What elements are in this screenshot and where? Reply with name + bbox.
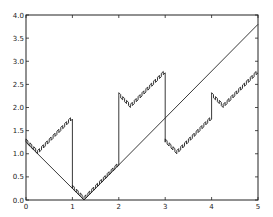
- ticks-layer: 0123450.00.51.01.52.02.53.03.54.0: [13, 12, 260, 212]
- series-layer: [26, 24, 258, 200]
- series-jagged-line: [26, 72, 258, 201]
- y-tick-label: 0.5: [13, 173, 24, 181]
- chart: 0123450.00.51.01.52.02.53.03.54.0: [0, 0, 273, 217]
- y-tick-label: 3.5: [13, 35, 24, 43]
- y-tick-label: 1.5: [13, 127, 24, 135]
- y-tick-label: 3.0: [13, 58, 24, 66]
- x-tick-label: 5: [256, 203, 260, 211]
- x-tick-label: 0: [24, 203, 28, 211]
- x-tick-label: 3: [163, 203, 167, 211]
- x-tick-label: 1: [70, 203, 74, 211]
- series-straight-line: [26, 24, 258, 200]
- y-tick-label: 1.0: [13, 150, 24, 158]
- x-tick-label: 2: [117, 203, 121, 211]
- x-tick-label: 4: [209, 203, 214, 211]
- y-tick-label: 4.0: [13, 12, 24, 20]
- y-tick-label: 0.0: [13, 197, 24, 205]
- y-tick-label: 2.5: [13, 81, 24, 89]
- y-tick-label: 2.0: [13, 104, 24, 112]
